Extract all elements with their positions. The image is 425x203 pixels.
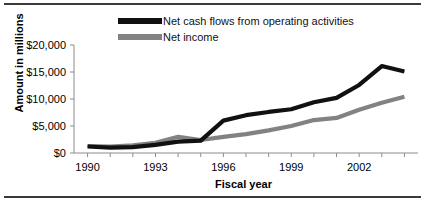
- plot-area: $0$5,000$10,000$15,000$20,000 1990199319…: [0, 0, 425, 203]
- y-tick-label: $20,000: [26, 39, 66, 51]
- chart-figure: Net cash flows from operating activities…: [0, 0, 425, 203]
- x-tick-label: 1990: [75, 161, 99, 173]
- series-line-net-income: [88, 97, 405, 147]
- x-tick-label: 1993: [143, 161, 167, 173]
- x-tick-label: 1996: [211, 161, 235, 173]
- x-axis-ticks: 19901993199619992002: [75, 153, 404, 173]
- x-tick-label: 2002: [347, 161, 371, 173]
- y-tick-label: $15,000: [26, 66, 66, 78]
- series-lines: [88, 66, 405, 148]
- y-axis-ticks: $0$5,000$10,000$15,000$20,000: [26, 39, 74, 159]
- axis-lines: [74, 45, 418, 153]
- chart-svg: $0$5,000$10,000$15,000$20,000 1990199319…: [0, 0, 425, 203]
- y-tick-label: $0: [54, 147, 66, 159]
- y-tick-label: $10,000: [26, 93, 66, 105]
- x-tick-label: 1999: [279, 161, 303, 173]
- y-tick-label: $5,000: [32, 120, 66, 132]
